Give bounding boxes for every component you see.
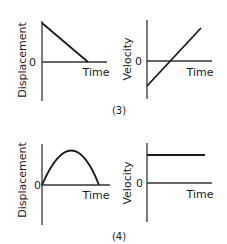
motion-graphs-diagram: 0 Time Displacement 0 Time Velocity (3) … — [0, 0, 227, 244]
x-axis-label: Time — [82, 66, 110, 79]
graph-4-displacement: 0 Time Displacement — [16, 142, 110, 225]
displacement-line — [42, 23, 88, 62]
x-axis-label: Time — [186, 66, 214, 79]
y-axis-label: Displacement — [16, 22, 29, 98]
y-axis-label: Displacement — [16, 142, 29, 218]
zero-label: 0 — [34, 179, 41, 192]
graph-3-velocity: 0 Time Velocity — [121, 20, 214, 99]
y-axis-label: Velocity — [121, 37, 134, 81]
graph-3-displacement: 0 Time Displacement — [16, 21, 110, 101]
zero-label: 0 — [29, 56, 36, 69]
zero-label: 0 — [136, 177, 143, 190]
zero-label: 0 — [135, 55, 142, 68]
y-axis-label: Velocity — [121, 161, 134, 205]
x-axis-label: Time — [186, 188, 214, 201]
graph-4-velocity: 0 Time Velocity — [121, 143, 214, 222]
panel-caption-3: (3) — [112, 105, 126, 116]
x-axis-label: Time — [82, 189, 110, 202]
panel-caption-4: (4) — [112, 231, 126, 242]
displacement-parabola — [42, 151, 99, 186]
